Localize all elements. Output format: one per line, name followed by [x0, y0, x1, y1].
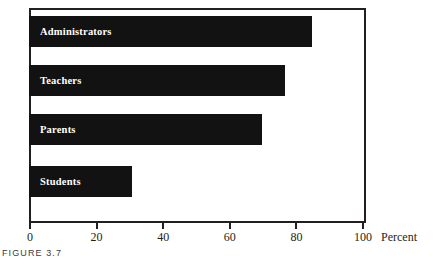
x-axis-tick-label: 40: [157, 231, 169, 243]
x-axis-tick: [229, 223, 231, 229]
bar-label-students: Students: [40, 176, 81, 187]
x-axis-tick: [96, 223, 98, 229]
x-axis-tick-label: 80: [290, 231, 302, 243]
figure-3-7: Administrators Teachers Parents Students…: [0, 0, 433, 264]
x-axis-tick: [29, 223, 31, 229]
x-axis-title: Percent: [381, 231, 417, 243]
bar-label-parents: Parents: [40, 124, 76, 135]
bar-label-teachers: Teachers: [40, 75, 81, 86]
x-axis-tick-label: 0: [27, 231, 33, 243]
x-axis-line: [29, 221, 364, 223]
bars-layer: Administrators Teachers Parents Students: [29, 8, 362, 221]
x-axis-tick: [362, 223, 364, 229]
x-axis-tick: [295, 223, 297, 229]
x-axis-tick-label: 60: [224, 231, 236, 243]
x-axis-tick-label: 20: [91, 231, 103, 243]
figure-caption: FIGURE 3.7: [2, 249, 62, 258]
x-axis-tick-label: 100: [354, 231, 372, 243]
bar-label-administrators: Administrators: [40, 26, 112, 37]
x-axis-tick: [162, 223, 164, 229]
